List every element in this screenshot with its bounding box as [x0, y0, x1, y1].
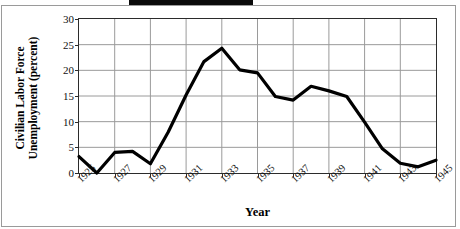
- y-tick-label: 15: [63, 90, 74, 102]
- y-tick-mark: [75, 70, 79, 71]
- y-tick-label: 20: [63, 64, 74, 76]
- y-tick-mark: [75, 147, 79, 148]
- chart-page: Civilian Labor Force Unemployment (perce…: [0, 0, 460, 229]
- y-axis-title: Civilian Labor Force Unemployment (perce…: [14, 13, 40, 183]
- x-tick-mark: [329, 173, 330, 177]
- data-line: [79, 19, 436, 173]
- x-tick-mark: [293, 173, 294, 177]
- plot-area: 0510152025301925192719291931193319351937…: [78, 18, 437, 174]
- y-tick-label: 30: [63, 13, 74, 25]
- y-tick-label: 10: [63, 116, 74, 128]
- y-axis-title-line2: Unemployment (percent): [27, 13, 40, 183]
- x-axis-title: Year: [78, 205, 437, 220]
- y-tick-label: 0: [69, 167, 75, 179]
- y-tick-mark: [75, 19, 79, 20]
- series-line: [79, 48, 436, 173]
- y-tick-mark: [75, 45, 79, 46]
- y-tick-label: 25: [63, 39, 74, 51]
- y-tick-mark: [75, 122, 79, 123]
- x-tick-mark: [186, 173, 187, 177]
- x-tick-mark: [365, 173, 366, 177]
- x-tick-mark: [400, 173, 401, 177]
- x-tick-mark: [115, 173, 116, 177]
- x-tick-mark: [258, 173, 259, 177]
- x-tick-mark: [222, 173, 223, 177]
- x-tick-mark: [79, 173, 80, 177]
- y-axis-title-line1: Civilian Labor Force: [14, 46, 26, 149]
- x-tick-mark: [150, 173, 151, 177]
- y-tick-mark: [75, 96, 79, 97]
- x-tick-mark: [436, 173, 437, 177]
- y-tick-label: 5: [69, 141, 75, 153]
